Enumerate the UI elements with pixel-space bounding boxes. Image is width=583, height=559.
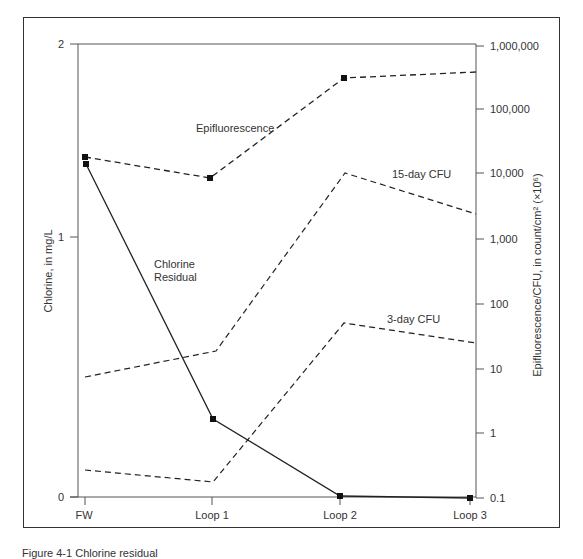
label-3-day-cfu: 3-day CFU <box>387 313 440 325</box>
left-tick-2: 2 <box>58 38 64 50</box>
right-tick-100000: 100,000 <box>490 103 530 115</box>
right-tick-10000: 10,000 <box>490 167 524 179</box>
x-tick-loop3: Loop 3 <box>453 509 487 521</box>
label-epifluorescence: Epifluorescence <box>196 122 274 134</box>
right-tick-1: 1 <box>490 427 496 439</box>
series-chlorine-residual <box>83 161 473 501</box>
right-tick-0-1: 0.1 <box>490 492 505 504</box>
x-tick-fw: FW <box>75 509 93 521</box>
right-tick-10: 10 <box>490 363 502 375</box>
left-axis-title: Chlorine, in mg/L <box>42 229 54 312</box>
figure-caption: Figure 4-1 Chlorine residual <box>22 547 158 559</box>
series-15-day-cfu <box>85 173 476 377</box>
label-chlorine-line2: Residual <box>154 271 197 283</box>
left-axis-ticks: 2 1 0 <box>58 38 78 503</box>
label-chlorine-line1: Chlorine <box>154 258 195 270</box>
right-tick-1000000: 1,000,000 <box>490 40 539 52</box>
series-epifluorescence <box>82 72 476 181</box>
x-tick-loop2: Loop 2 <box>323 509 357 521</box>
label-15-day-cfu: 15-day CFU <box>392 168 451 180</box>
x-axis-ticks: FW Loop 1 Loop 2 Loop 3 <box>75 497 486 521</box>
series-3-day-cfu <box>85 323 476 482</box>
x-tick-loop1: Loop 1 <box>195 509 229 521</box>
right-tick-100: 100 <box>490 298 508 310</box>
right-axis-ticks: 1,000,000 100,000 10,000 1,000 100 10 1 … <box>476 40 539 504</box>
left-tick-0: 0 <box>58 491 64 503</box>
right-axis-title: Epifluorescence/CFU, in count/cm² (×10⁶) <box>531 173 543 377</box>
right-tick-1000: 1,000 <box>490 233 518 245</box>
left-tick-1: 1 <box>58 231 64 243</box>
